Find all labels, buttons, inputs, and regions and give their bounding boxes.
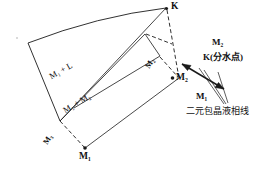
dashed-edge-left-to-m1 (60, 121, 85, 148)
vertex-dot-k (165, 7, 168, 10)
vertex-dot-m2 (171, 76, 175, 80)
callout-label-m2-top: M₂ (212, 38, 223, 47)
vertex-dot-m1 (83, 146, 87, 150)
vertex-label-m1-bottom: M₁ (79, 152, 91, 162)
arrowhead-upper-left-icon (182, 64, 191, 71)
edge-inner-right-top (145, 34, 160, 56)
callout-label-m1-lower: M₁ (196, 92, 207, 101)
vertex-label-m2-right: M₂ (176, 73, 188, 83)
edge-left-outer (28, 43, 60, 121)
vertex-label-k: K (171, 2, 178, 12)
speck-artifact (16, 37, 17, 38)
phase-diagram-canvas (0, 0, 274, 177)
callout-label-k-point: K(分水点) (203, 53, 243, 62)
edge-m1-to-m2 (85, 78, 179, 148)
callout-label-liquidus-line: 二元包晶液相线 (186, 107, 249, 116)
dashed-tie-upper (146, 34, 172, 44)
dashed-tie-k-to-m2 (167, 10, 179, 78)
curve-liquidus-boundary (28, 8, 166, 43)
